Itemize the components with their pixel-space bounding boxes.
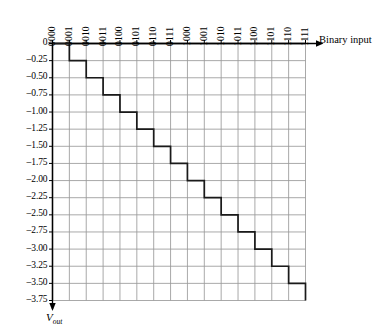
tick-marks bbox=[49, 40, 306, 301]
y-tick-label: –2.00 bbox=[27, 174, 48, 184]
y-tick-label: –1.50 bbox=[27, 140, 48, 150]
axis-lines bbox=[49, 40, 323, 311]
x-tick-label: 0000 bbox=[47, 26, 57, 46]
x-tick-label: 1011 bbox=[233, 26, 243, 45]
x-axis-label: Binary input bbox=[319, 34, 372, 45]
y-tick-label: –3.50 bbox=[27, 277, 48, 287]
y-tick-label: –2.75 bbox=[27, 225, 48, 235]
grid-lines bbox=[53, 44, 306, 301]
x-tick-label: 1000 bbox=[182, 26, 192, 46]
y-tick-label: –1.25 bbox=[27, 123, 48, 133]
x-tick-label: 0101 bbox=[131, 26, 141, 46]
y-tick-label: –3.75 bbox=[27, 294, 48, 304]
y-tick-label: –1.00 bbox=[27, 106, 48, 116]
y-tick-label: –0.75 bbox=[27, 88, 48, 98]
x-tick-label: 1100 bbox=[249, 26, 259, 45]
y-axis-arrowhead bbox=[49, 303, 55, 311]
y-axis-label-main: V bbox=[46, 311, 53, 323]
y-tick-label: –0.50 bbox=[27, 71, 48, 81]
y-axis-label: Vout bbox=[46, 311, 62, 326]
y-axis-label-sub: out bbox=[53, 317, 63, 326]
x-tick-label: 1101 bbox=[266, 26, 276, 45]
staircase-line bbox=[53, 44, 306, 301]
x-tick-label: 1001 bbox=[199, 26, 209, 46]
y-tick-label: –0.25 bbox=[27, 54, 48, 64]
x-tick-label: 1110 bbox=[283, 26, 293, 45]
x-tick-label: 0010 bbox=[81, 26, 91, 46]
y-tick-label: –2.25 bbox=[27, 191, 48, 201]
x-tick-label: 0110 bbox=[148, 26, 158, 45]
x-tick-label: 0011 bbox=[98, 26, 108, 45]
x-tick-label: 1111 bbox=[300, 27, 310, 46]
y-tick-label: –3.25 bbox=[27, 260, 48, 270]
x-tick-label: 0100 bbox=[114, 26, 124, 46]
y-tick-label: –3.00 bbox=[27, 243, 48, 253]
y-tick-label: –1.75 bbox=[27, 157, 48, 167]
x-tick-label: 0111 bbox=[165, 26, 175, 45]
x-tick-label: 0001 bbox=[64, 26, 74, 46]
y-tick-label: –2.50 bbox=[27, 208, 48, 218]
staircase-curve bbox=[53, 44, 306, 301]
dac-staircase-figure bbox=[0, 0, 385, 334]
x-tick-label: 1010 bbox=[216, 26, 226, 46]
